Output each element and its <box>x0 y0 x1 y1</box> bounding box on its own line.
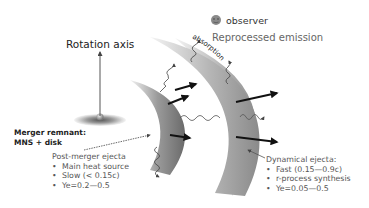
dynamical-ejecta-label: Dynamical ejecta: Fast (0.15—0.9c) r-pro… <box>266 155 351 193</box>
post-merger-pointer <box>84 135 150 150</box>
rotation-axis-label: Rotation axis <box>66 39 134 50</box>
merger-remnant-line2: MNS + disk <box>14 138 86 148</box>
dynamical-bullet: Ye=0.05—0.5 <box>266 184 351 194</box>
outflow-arrow <box>175 84 196 90</box>
post-merger-bullet: Ye=0.2—0.5 <box>52 181 129 191</box>
observer-label: observer <box>226 16 268 26</box>
photon-wave <box>180 116 220 121</box>
dynamical-bullet: Fast (0.15—0.9c) <box>266 165 351 175</box>
post-merger-title: Post-merger ejecta <box>52 152 129 162</box>
merger-remnant-line1: Merger remnant: <box>14 128 86 138</box>
outflow-arrow <box>168 96 188 104</box>
post-merger-bullet: Main heat source <box>52 162 129 172</box>
post-merger-bullet: Slow (< 0.15c) <box>52 171 129 181</box>
dynamical-title: Dynamical ejecta: <box>266 155 351 165</box>
photon-wave <box>160 64 174 92</box>
dynamical-bullet: r-process synthesis <box>266 174 351 184</box>
face-icon <box>211 15 221 25</box>
post-merger-ejecta-shell <box>130 80 185 175</box>
kilonova-ejecta-diagram: absorption Rotation axis observer Reproc… <box>0 0 369 208</box>
merger-remnant-label: Merger remnant: MNS + disk <box>14 128 86 148</box>
post-merger-ejecta-label: Post-merger ejecta Main heat source Slow… <box>52 152 129 190</box>
reprocessed-emission-label: Reprocessed emission <box>212 33 323 43</box>
